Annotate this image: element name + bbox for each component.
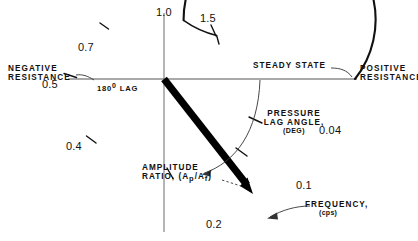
- positive-resistance-line2: RESISTANCE: [360, 73, 418, 82]
- pressure-lag-angle-label: PRESSURE LAG ANGLE, (DEG): [253, 109, 335, 135]
- amplitude-ratio-line2: RATIO, (Ap/Af): [142, 172, 212, 183]
- tick-label-1-5: 1.5: [200, 12, 216, 24]
- amplitude-ratio-mid: /A: [195, 172, 205, 181]
- tick-label-0-7: 0.7: [78, 41, 94, 53]
- negative-resistance-line2: RESISTANCE: [8, 73, 84, 82]
- frequency-units: (cps): [305, 209, 389, 217]
- lag-note-value: 180: [97, 84, 112, 93]
- positive-resistance-label: POSITIVE RESISTANCE: [360, 64, 418, 82]
- steady-state-label: STEADY STATE: [253, 61, 326, 70]
- frequency-arrowhead: [267, 213, 278, 220]
- amplitude-ratio-leader: [222, 180, 241, 186]
- pressure-lag-line2: LAG ANGLE,: [253, 118, 335, 127]
- tick-label-0-4: 0.4: [66, 140, 82, 152]
- locus-tail-hook: [217, 35, 219, 44]
- frequency-label-text: FREQUENCY,: [305, 200, 389, 209]
- lag-angle-arc: [204, 80, 261, 174]
- lag-note-label: 1800 LAG: [97, 82, 138, 94]
- pressure-lag-line1: PRESSURE: [253, 109, 335, 118]
- pressure-lag-units: (DEG): [253, 127, 335, 135]
- amplitude-ratio-post: ): [208, 172, 212, 181]
- tick-label-0-1: 0.1: [296, 179, 312, 191]
- negative-resistance-label: NEGATIVE RESISTANCE: [8, 64, 84, 82]
- steady-state-leader: [331, 68, 352, 77]
- amplitude-ratio-pre: RATIO, (A: [142, 172, 189, 181]
- figure-canvas: 1.5 1.0 0.7 0.5 0.4 0.2 0.1 0.04 NEGATIV…: [0, 0, 418, 241]
- positive-resistance-line1: POSITIVE: [360, 64, 418, 73]
- arc-tick-marks: [64, 0, 262, 179]
- frequency-label: FREQUENCY, (cps): [305, 200, 389, 217]
- tick-label-0-2: 0.2: [206, 218, 222, 230]
- amplitude-ratio-label: AMPLITUDE RATIO, (Ap/Af): [142, 163, 212, 184]
- negative-resistance-line1: NEGATIVE: [8, 64, 84, 73]
- lag-note-tail: LAG: [117, 84, 138, 93]
- amplitude-ratio-line1: AMPLITUDE: [142, 163, 212, 172]
- tick-label-1-0: 1.0: [156, 6, 172, 18]
